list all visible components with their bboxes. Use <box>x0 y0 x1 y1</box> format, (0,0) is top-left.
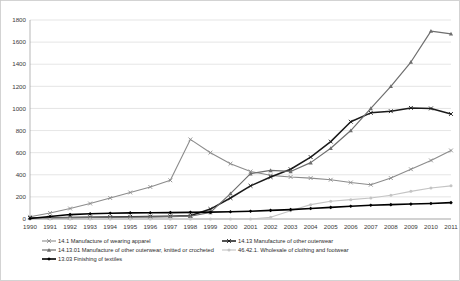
line-chart: 020040060080010001200140016001800 199019… <box>0 0 460 281</box>
data-point-marker <box>329 140 333 144</box>
data-point-marker <box>389 203 393 207</box>
x-axis-tick-label: 2011 <box>444 223 458 230</box>
data-point-marker <box>129 218 132 221</box>
y-axis-tick-labels: 020040060080010001200140016001800 <box>12 16 26 222</box>
data-point-marker <box>89 218 92 221</box>
data-point-marker <box>389 194 392 197</box>
y-axis-tick-label: 1400 <box>12 60 26 67</box>
x-axis-tick-label: 1990 <box>23 223 37 230</box>
x-axis-tick-label: 2009 <box>404 223 418 230</box>
data-point-marker <box>449 201 453 205</box>
x-axis-tick-label: 2001 <box>244 223 258 230</box>
data-point-marker <box>169 218 172 221</box>
data-point-marker <box>209 218 212 221</box>
data-point-marker <box>47 257 51 261</box>
data-point-marker <box>188 138 192 142</box>
legend-item[interactable]: 14.13.01 Manufacture of other outerwear,… <box>42 247 214 253</box>
x-axis-tick-label: 1999 <box>204 223 218 230</box>
data-point-marker <box>409 190 412 193</box>
data-point-marker <box>269 216 272 219</box>
y-axis-tick-label: 1600 <box>12 38 26 45</box>
x-axis-tick-label: 1993 <box>83 223 97 230</box>
y-axis-tick-label: 1200 <box>12 83 26 90</box>
legend-item-label: 14.1 Manufacture of wearing apparel <box>58 238 151 244</box>
data-point-marker <box>309 207 313 211</box>
data-point-marker <box>88 212 92 216</box>
legend-item-label: 14.13.01 Manufacture of other outerwear,… <box>58 247 214 253</box>
y-axis-tick-label: 400 <box>16 171 27 178</box>
y-axis-tick-label: 600 <box>16 149 27 156</box>
legend-item[interactable]: 13.03 Finishing of textiles <box>42 256 122 262</box>
data-point-marker <box>148 211 152 215</box>
data-point-marker <box>269 209 273 213</box>
data-series-group <box>28 29 453 221</box>
x-axis-tick-label: 2002 <box>264 223 278 230</box>
data-point-marker <box>149 218 152 221</box>
data-point-marker <box>409 202 413 206</box>
data-point-marker <box>369 196 372 199</box>
data-point-marker <box>449 149 453 153</box>
data-point-marker <box>249 218 252 221</box>
series-line <box>30 31 451 218</box>
x-axis-tick-label: 2005 <box>324 223 338 230</box>
data-point-marker <box>108 211 112 215</box>
legend-item-label: 14.13 Manufacture of other outerwear <box>238 238 333 244</box>
data-point-marker <box>69 218 72 221</box>
data-point-marker <box>429 187 432 190</box>
x-axis-tick-label: 2000 <box>224 223 238 230</box>
series-line <box>30 203 451 219</box>
chart-container: 020040060080010001200140016001800 199019… <box>0 0 460 281</box>
data-point-marker <box>349 198 352 201</box>
legend-item[interactable]: 14.1 Manufacture of wearing apparel <box>42 238 151 244</box>
data-point-marker <box>450 184 453 187</box>
x-axis-tick-label: 1997 <box>163 223 177 230</box>
x-axis-tick-label: 1998 <box>183 223 197 230</box>
series-line <box>30 108 451 218</box>
data-point-marker <box>189 218 192 221</box>
x-axis-tick-label: 2007 <box>364 223 378 230</box>
legend: 14.1 Manufacture of wearing apparel14.13… <box>42 238 349 262</box>
data-point-marker <box>369 203 373 207</box>
x-axis-tick-label: 1991 <box>43 223 57 230</box>
data-point-marker <box>169 211 173 215</box>
data-point-marker <box>229 218 232 221</box>
x-axis-tick-label: 2008 <box>384 223 398 230</box>
x-axis-tick-label: 1996 <box>143 223 157 230</box>
y-axis-tick-label: 1000 <box>12 105 26 112</box>
y-axis-tick-label: 1800 <box>12 16 26 23</box>
data-point-marker <box>229 210 233 214</box>
x-axis-tick-labels: 1990199119921993199419951996199719981999… <box>23 223 458 230</box>
data-point-marker <box>109 218 112 221</box>
data-point-marker <box>329 200 332 203</box>
data-point-marker <box>128 211 132 215</box>
legend-item[interactable]: 46.42.1. Wholesale of clothing and footw… <box>222 247 349 253</box>
data-point-marker <box>249 209 253 213</box>
data-point-marker <box>189 211 193 215</box>
data-point-marker <box>228 249 231 252</box>
legend-item-label: 46.42.1. Wholesale of clothing and footw… <box>238 247 349 253</box>
plot-area-border <box>30 20 451 219</box>
legend-item-label: 13.03 Finishing of textiles <box>58 256 122 262</box>
x-axis-tick-label: 2004 <box>304 223 318 230</box>
data-series <box>28 138 453 219</box>
data-point-marker <box>309 203 312 206</box>
data-point-marker <box>329 206 333 210</box>
y-axis-tick-label: 0 <box>23 215 27 222</box>
y-axis-tick-label: 200 <box>16 193 27 200</box>
legend-item[interactable]: 14.13 Manufacture of other outerwear <box>222 238 333 244</box>
data-point-marker <box>429 202 433 206</box>
x-axis-tick-label: 1995 <box>123 223 137 230</box>
y-axis-tick-label: 800 <box>16 127 27 134</box>
x-axis-tick-label: 2010 <box>424 223 438 230</box>
data-point-marker <box>349 204 353 208</box>
gridlines <box>30 20 451 219</box>
x-axis-tick-label: 1992 <box>63 223 77 230</box>
x-axis-tick-label: 2006 <box>344 223 358 230</box>
x-axis-tick-label: 2003 <box>284 223 298 230</box>
x-axis-tick-label: 1994 <box>103 223 117 230</box>
